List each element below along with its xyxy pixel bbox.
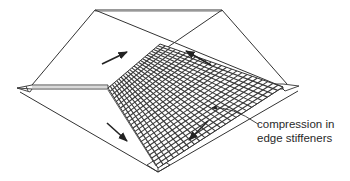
annotation-compression-line1: compression in [257,118,334,131]
annotation-compression-line2: edge stiffeners [257,132,332,145]
shell-grid [108,44,283,168]
hypar-shell-diagram [0,0,350,181]
shear-arrow-upper-left [102,52,127,64]
shear-arrow-lower-left [107,123,127,141]
left-edge-stiffener [17,85,108,92]
